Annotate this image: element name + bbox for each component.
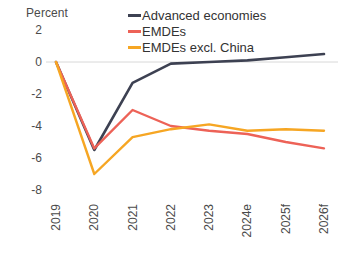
series-line: [56, 62, 324, 148]
series-line: [56, 62, 324, 174]
legend-item-label: Advanced economies: [142, 8, 266, 23]
x-axis-tick-label: 2025f: [279, 200, 293, 250]
legend-color-swatch-icon: [128, 46, 141, 49]
x-axis-tick-label: 2026f: [317, 200, 331, 250]
y-axis-tick-label: -8: [8, 183, 42, 197]
x-axis-tick-label: 2019: [49, 200, 63, 250]
y-axis-tick-label: -6: [8, 151, 42, 165]
legend-item: EMDEs excl. China: [128, 40, 266, 55]
line-chart: Percent 20-2-4-6-8 201920202021202220232…: [0, 0, 338, 253]
x-axis-tick-label: 2020: [87, 200, 101, 250]
series-group: [56, 54, 324, 174]
chart-legend: Advanced economiesEMDEsEMDEs excl. China: [128, 8, 266, 55]
legend-item: Advanced economies: [128, 8, 266, 23]
legend-item-label: EMDEs excl. China: [142, 40, 254, 55]
legend-item: EMDEs: [128, 24, 266, 39]
y-axis-tick-label: -4: [8, 119, 42, 133]
x-axis-tick-label: 2024e: [240, 200, 254, 250]
legend-item-label: EMDEs: [142, 24, 186, 39]
legend-color-swatch-icon: [128, 14, 141, 17]
y-axis-tick-label: 2: [8, 23, 42, 37]
x-axis-tick-label: 2022: [164, 200, 178, 250]
y-axis-tick-label: -2: [8, 87, 42, 101]
x-axis-tick-label: 2021: [126, 200, 140, 250]
y-axis-tick-label: 0: [8, 55, 42, 69]
series-line: [56, 54, 324, 150]
legend-color-swatch-icon: [128, 30, 141, 33]
x-axis-tick-label: 2023: [202, 200, 216, 250]
